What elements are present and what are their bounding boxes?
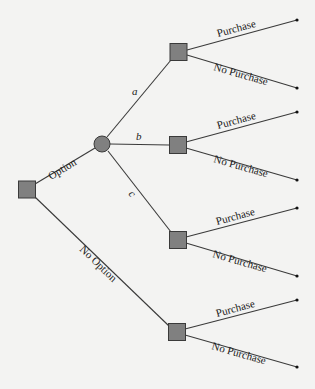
decision-node-c [170,232,187,249]
decision-node-b [170,137,187,154]
decision-tree-diagram: Option No Option a b c Purchase No Purch… [0,0,315,389]
label-b: b [136,130,142,142]
chance-node [94,136,110,152]
edge-c [108,151,171,232]
endpoint-dot [295,365,298,368]
endpoint-dot [295,86,298,89]
label-no-option: No Option [78,243,120,284]
endpoint-dot [295,18,298,21]
decision-node-a [170,44,187,61]
diagram-svg: Option No Option a b c Purchase No Purch… [0,0,315,389]
endpoint-dot [295,274,298,277]
label-c-no-purchase: No Purchase [211,247,268,274]
endpoint-dot [295,110,298,113]
label-b-purchase: Purchase [215,109,257,131]
label-no-option-no-purchase: No Purchase [210,339,267,366]
edge-a [107,60,171,137]
root-decision-node [19,181,36,198]
label-a: a [132,85,138,97]
endpoint-dot [295,178,298,181]
endpoint-dot [295,206,298,209]
label-b-no-purchase: No Purchase [212,152,269,179]
label-option: Option [46,155,79,181]
decision-node-no-option [169,324,186,341]
label-a-purchase: Purchase [215,17,257,39]
label-c: c [126,188,139,199]
edge-b [110,144,169,145]
endpoint-dot [295,298,298,301]
label-a-no-purchase: No Purchase [212,60,269,87]
